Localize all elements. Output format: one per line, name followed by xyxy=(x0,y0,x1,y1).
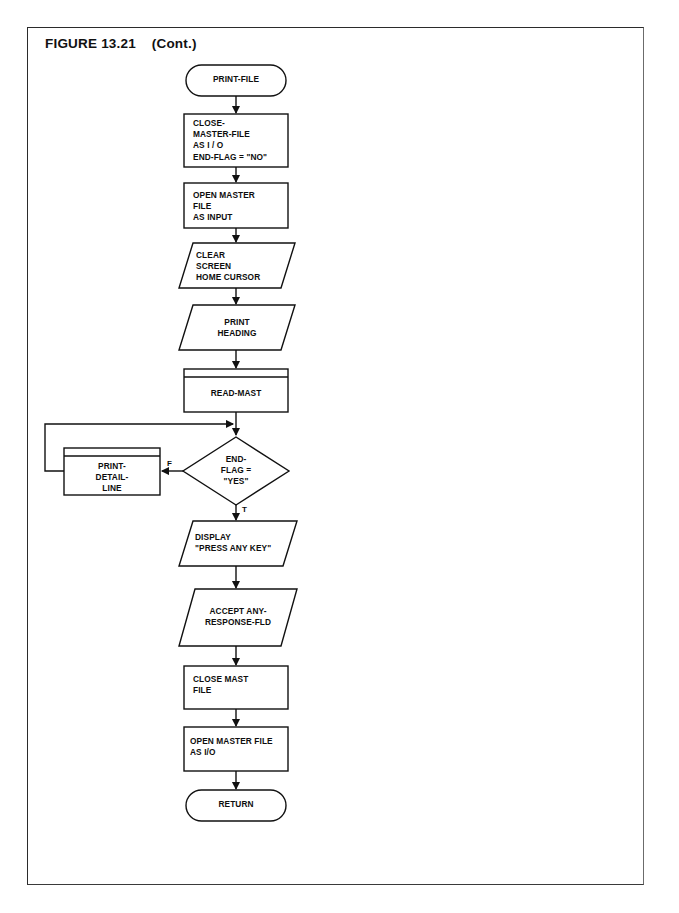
line-2: MASTER-FILE xyxy=(193,129,250,139)
line-2: FILE xyxy=(193,201,211,211)
node-end-flag-decision-label: END-FLAG ="YES" xyxy=(203,454,269,488)
line-1: OPEN MASTER xyxy=(193,190,255,200)
line-1: CLEAR xyxy=(196,250,225,260)
line-3: HOME CURSOR xyxy=(196,272,260,282)
line-3: LINE xyxy=(102,483,121,493)
line-2: DETAIL- xyxy=(96,472,129,482)
node-accept-any-response-fld-label: ACCEPT ANY-RESPONSE-FLD xyxy=(188,606,288,628)
edge-label-false: F xyxy=(167,459,172,468)
line-1: DISPLAY xyxy=(195,532,231,542)
node-return-label: RETURN xyxy=(186,799,286,810)
line-2: AS I/O xyxy=(190,747,216,757)
line-2: FILE xyxy=(193,685,211,695)
node-close-master-file-label: CLOSE-MASTER-FILEAS I / OEND-FLAG = "NO" xyxy=(193,118,288,163)
edge-label-true: T xyxy=(242,505,247,514)
line-2: HEADING xyxy=(218,328,257,338)
node-print-file-label: PRINT-FILE xyxy=(186,74,286,85)
node-print-heading-label: PRINTHEADING xyxy=(187,317,287,339)
line-3: AS I / O xyxy=(193,140,223,150)
line-2: SCREEN xyxy=(196,261,231,271)
node-open-master-file-input-label: OPEN MASTERFILEAS INPUT xyxy=(193,190,288,224)
node-print-detail-line-label: PRINT-DETAIL-LINE xyxy=(64,461,160,495)
node-read-mast-label: READ-MAST xyxy=(184,388,288,399)
line-1: PRINT- xyxy=(98,461,126,471)
figure-page: FIGURE 13.21 (Cont.) xyxy=(0,0,679,913)
line-3: "YES" xyxy=(224,476,249,486)
flowchart-canvas xyxy=(0,0,679,913)
node-display-press-any-key-label: DISPLAY"PRESS ANY KEY" xyxy=(195,532,295,554)
node-open-master-file-io-label: OPEN MASTER FILEAS I/O xyxy=(190,736,288,758)
node-close-mast-file-label: CLOSE MASTFILE xyxy=(193,674,288,696)
line-1: PRINT xyxy=(224,317,249,327)
line-2: FLAG = xyxy=(221,465,251,475)
line-3: AS INPUT xyxy=(193,212,233,222)
line-1: OPEN MASTER FILE xyxy=(190,736,273,746)
line-4: END-FLAG = "NO" xyxy=(193,152,267,162)
line-1: END- xyxy=(226,454,247,464)
node-clear-screen-label: CLEARSCREENHOME CURSOR xyxy=(196,250,291,284)
line-1: CLOSE MAST xyxy=(193,674,248,684)
line-1: ACCEPT ANY- xyxy=(209,606,266,616)
line-1: CLOSE- xyxy=(193,118,225,128)
line-2: "PRESS ANY KEY" xyxy=(195,543,271,553)
line-2: RESPONSE-FLD xyxy=(205,617,271,627)
